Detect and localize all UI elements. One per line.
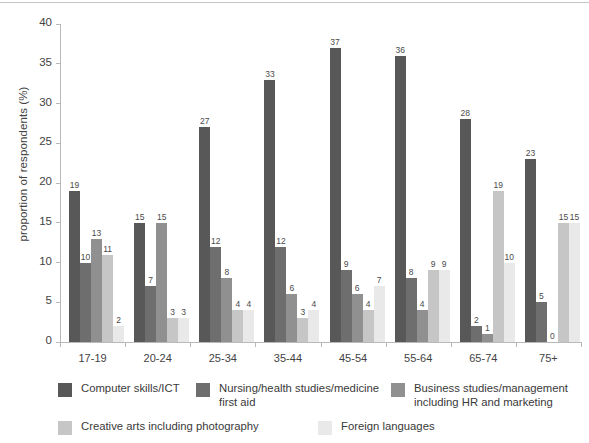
bar[interactable]	[221, 278, 232, 342]
bar-slot: 36	[395, 24, 406, 342]
bar[interactable]	[352, 294, 363, 342]
bar-value-label: 6	[352, 283, 363, 293]
bar-value-label: 12	[210, 236, 221, 246]
bar[interactable]	[286, 294, 297, 342]
bar-value-label: 4	[363, 299, 374, 309]
bar[interactable]	[210, 247, 221, 342]
legend-item-label: Creative arts including photography	[81, 420, 259, 434]
bar[interactable]	[69, 191, 80, 342]
legend-item[interactable]: Business studies/management including HR…	[391, 382, 568, 409]
x-axis-tick	[386, 342, 387, 347]
bar[interactable]	[113, 326, 124, 342]
bar[interactable]	[102, 255, 113, 342]
bar-chart: proportion of respondents (%) 0510152025…	[0, 8, 589, 368]
legend-item[interactable]: Nursing/health studies/medicine first ai…	[196, 382, 379, 409]
bar-value-label: 33	[264, 69, 275, 79]
bar[interactable]	[417, 310, 428, 342]
bar-group-bars: 28211910	[460, 24, 515, 342]
bar-value-label: 28	[460, 108, 471, 118]
bar[interactable]	[178, 318, 189, 342]
bar[interactable]	[91, 239, 102, 342]
bar-value-label: 15	[156, 212, 167, 222]
bar[interactable]	[374, 286, 385, 342]
bar-value-label: 0	[547, 331, 558, 341]
x-axis-category-label: 17-19	[60, 352, 125, 364]
bar-slot: 15	[569, 24, 580, 342]
bar[interactable]	[341, 270, 352, 342]
x-axis-tick	[321, 342, 322, 347]
y-tick-mark	[56, 222, 60, 223]
bar[interactable]	[460, 119, 471, 342]
legend-item-label: Computer skills/ICT	[81, 382, 180, 396]
bar[interactable]	[493, 191, 504, 342]
bar-group-bars: 3312634	[264, 24, 319, 342]
bar-slot: 15	[134, 24, 145, 342]
bar[interactable]	[232, 310, 243, 342]
legend-item[interactable]: Foreign languages	[318, 420, 435, 435]
bar[interactable]	[406, 278, 417, 342]
bar-value-label: 36	[395, 45, 406, 55]
bar[interactable]	[330, 48, 341, 342]
bar-value-label: 15	[558, 212, 569, 222]
bar-slot: 9	[341, 24, 352, 342]
x-axis-category-label: 20-24	[125, 352, 190, 364]
bar-slot: 2	[113, 24, 124, 342]
y-tick-label: 40	[39, 16, 52, 28]
bar[interactable]	[395, 56, 406, 342]
bar-value-label: 2	[471, 315, 482, 325]
bar[interactable]	[199, 127, 210, 342]
bar-slot: 23	[525, 24, 536, 342]
bar[interactable]	[482, 334, 493, 342]
bar-value-label: 12	[275, 236, 286, 246]
bar-slot: 8	[221, 24, 232, 342]
bar[interactable]	[504, 263, 515, 343]
bar-value-label: 1	[482, 323, 493, 333]
bar-value-label: 4	[308, 299, 319, 309]
bar[interactable]	[363, 310, 374, 342]
bar[interactable]	[156, 223, 167, 342]
legend-item-label: Foreign languages	[341, 420, 435, 434]
x-axis-category-label: 35-44	[255, 352, 320, 364]
bar-slot: 5	[536, 24, 547, 342]
bar[interactable]	[297, 318, 308, 342]
bar[interactable]	[439, 270, 450, 342]
bar[interactable]	[80, 263, 91, 343]
bar-group-bars: 23501515	[525, 24, 580, 342]
bar[interactable]	[428, 270, 439, 342]
x-axis-tick	[60, 342, 61, 347]
bar-value-label: 9	[428, 259, 439, 269]
bar[interactable]	[243, 310, 254, 342]
bar[interactable]	[471, 326, 482, 342]
x-axis-tick	[125, 342, 126, 347]
bar[interactable]	[569, 223, 580, 342]
bar[interactable]	[134, 223, 145, 342]
y-tick-mark	[56, 302, 60, 303]
y-tick-label: 5	[46, 294, 52, 306]
bar-value-label: 4	[417, 299, 428, 309]
bar[interactable]	[308, 310, 319, 342]
bar[interactable]	[525, 159, 536, 342]
y-axis-label: proportion of respondents (%)	[17, 49, 29, 279]
bar[interactable]	[167, 318, 178, 342]
y-axis-tick: 35	[0, 64, 60, 65]
legend-color-swatch	[58, 421, 72, 435]
x-axis-category-label: 25-34	[190, 352, 255, 364]
bar[interactable]	[536, 302, 547, 342]
bar-value-label: 8	[221, 267, 232, 277]
bar[interactable]	[558, 223, 569, 342]
y-axis-tick: 20	[0, 183, 60, 184]
bar-slot: 4	[417, 24, 428, 342]
bar[interactable]	[145, 286, 156, 342]
bar[interactable]	[275, 247, 286, 342]
bar[interactable]	[264, 80, 275, 342]
legend-item[interactable]: Computer skills/ICT	[58, 382, 180, 397]
legend-color-swatch	[391, 383, 405, 397]
legend-item[interactable]: Creative arts including photography	[58, 420, 259, 435]
y-tick-mark	[56, 103, 60, 104]
bar-value-label: 37	[330, 37, 341, 47]
bar-slot: 7	[145, 24, 156, 342]
y-tick-label: 20	[39, 175, 52, 187]
bar-group-bars: 2712844	[199, 24, 254, 342]
bar-slot: 33	[264, 24, 275, 342]
bar-value-label: 15	[569, 212, 580, 222]
